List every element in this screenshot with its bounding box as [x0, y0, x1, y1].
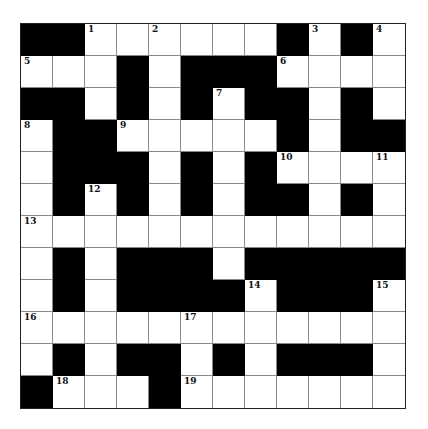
answer-cell[interactable]: [21, 152, 53, 184]
answer-cell[interactable]: [309, 56, 341, 88]
answer-cell[interactable]: 3: [309, 24, 341, 56]
answer-cell[interactable]: [85, 280, 117, 312]
answer-cell[interactable]: [181, 216, 213, 248]
answer-cell[interactable]: [373, 216, 405, 248]
answer-cell[interactable]: [85, 312, 117, 344]
answer-cell[interactable]: [245, 120, 277, 152]
answer-cell[interactable]: [85, 56, 117, 88]
answer-cell[interactable]: 14: [245, 280, 277, 312]
answer-cell[interactable]: [85, 88, 117, 120]
black-square: [277, 88, 309, 120]
answer-cell[interactable]: [245, 344, 277, 376]
answer-cell[interactable]: [213, 312, 245, 344]
answer-cell[interactable]: [309, 152, 341, 184]
answer-cell[interactable]: [117, 216, 149, 248]
answer-cell[interactable]: [277, 216, 309, 248]
answer-cell[interactable]: [181, 120, 213, 152]
answer-cell[interactable]: [245, 24, 277, 56]
black-square: [277, 280, 309, 312]
answer-cell[interactable]: [149, 56, 181, 88]
answer-cell[interactable]: [277, 312, 309, 344]
black-square: [181, 88, 213, 120]
answer-cell[interactable]: 10: [277, 152, 309, 184]
answer-cell[interactable]: [149, 88, 181, 120]
answer-cell[interactable]: 17: [181, 312, 213, 344]
answer-cell[interactable]: [277, 376, 309, 408]
answer-cell[interactable]: 5: [21, 56, 53, 88]
answer-cell[interactable]: 12: [85, 184, 117, 216]
black-square: [277, 184, 309, 216]
answer-cell[interactable]: [213, 120, 245, 152]
answer-cell[interactable]: [85, 216, 117, 248]
answer-cell[interactable]: [341, 216, 373, 248]
answer-cell[interactable]: [53, 216, 85, 248]
answer-cell[interactable]: [85, 376, 117, 408]
clue-number: 5: [24, 57, 30, 66]
answer-cell[interactable]: [341, 152, 373, 184]
answer-cell[interactable]: [53, 56, 85, 88]
answer-cell[interactable]: [149, 152, 181, 184]
answer-cell[interactable]: 7: [213, 88, 245, 120]
answer-cell[interactable]: [309, 184, 341, 216]
answer-cell[interactable]: [373, 56, 405, 88]
answer-cell[interactable]: [309, 312, 341, 344]
answer-cell[interactable]: [373, 312, 405, 344]
answer-cell[interactable]: [149, 184, 181, 216]
answer-cell[interactable]: 19: [181, 376, 213, 408]
answer-cell[interactable]: [21, 344, 53, 376]
answer-cell[interactable]: 11: [373, 152, 405, 184]
answer-cell[interactable]: 9: [117, 120, 149, 152]
black-square: [181, 184, 213, 216]
answer-cell[interactable]: [181, 24, 213, 56]
answer-cell[interactable]: [181, 344, 213, 376]
answer-cell[interactable]: [245, 312, 277, 344]
answer-cell[interactable]: 8: [21, 120, 53, 152]
answer-cell[interactable]: [373, 184, 405, 216]
answer-cell[interactable]: [213, 24, 245, 56]
answer-cell[interactable]: [21, 280, 53, 312]
answer-cell[interactable]: [149, 216, 181, 248]
answer-cell[interactable]: 2: [149, 24, 181, 56]
answer-cell[interactable]: [149, 312, 181, 344]
answer-cell[interactable]: [245, 376, 277, 408]
black-square: [341, 24, 373, 56]
answer-cell[interactable]: 18: [53, 376, 85, 408]
answer-cell[interactable]: 16: [21, 312, 53, 344]
answer-cell[interactable]: [373, 376, 405, 408]
answer-cell[interactable]: [309, 120, 341, 152]
answer-cell[interactable]: 6: [277, 56, 309, 88]
answer-cell[interactable]: [373, 344, 405, 376]
black-square: [53, 152, 85, 184]
answer-cell[interactable]: [309, 216, 341, 248]
answer-cell[interactable]: [373, 88, 405, 120]
answer-cell[interactable]: [53, 312, 85, 344]
answer-cell[interactable]: [149, 120, 181, 152]
answer-cell[interactable]: [117, 376, 149, 408]
answer-cell[interactable]: [117, 312, 149, 344]
answer-cell[interactable]: [117, 24, 149, 56]
answer-cell[interactable]: [213, 376, 245, 408]
answer-cell[interactable]: [21, 184, 53, 216]
black-square: [117, 248, 149, 280]
answer-cell[interactable]: [309, 88, 341, 120]
answer-cell[interactable]: [213, 216, 245, 248]
answer-cell[interactable]: 1: [85, 24, 117, 56]
answer-cell[interactable]: [245, 216, 277, 248]
answer-cell[interactable]: 15: [373, 280, 405, 312]
answer-cell[interactable]: [213, 152, 245, 184]
answer-cell[interactable]: [21, 248, 53, 280]
black-square: [277, 344, 309, 376]
black-square: [213, 56, 245, 88]
answer-cell[interactable]: [85, 344, 117, 376]
clue-number: 4: [376, 25, 382, 34]
answer-cell[interactable]: [85, 248, 117, 280]
answer-cell[interactable]: [309, 376, 341, 408]
answer-cell[interactable]: 13: [21, 216, 53, 248]
answer-cell[interactable]: [341, 312, 373, 344]
black-square: [341, 280, 373, 312]
answer-cell[interactable]: [213, 184, 245, 216]
answer-cell[interactable]: [213, 248, 245, 280]
answer-cell[interactable]: [341, 56, 373, 88]
answer-cell[interactable]: [341, 376, 373, 408]
answer-cell[interactable]: 4: [373, 24, 405, 56]
